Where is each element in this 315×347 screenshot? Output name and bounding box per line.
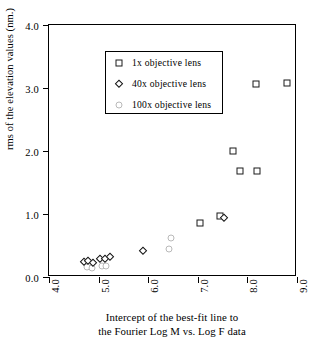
x-tick: 8.0	[247, 277, 248, 283]
y-tick-label: 4.0	[25, 21, 39, 32]
data-point-circle	[102, 262, 109, 269]
scatter-plot-figure: rms of the elevation values (nm.) 0.01.0…	[0, 0, 315, 347]
x-tick: 6.0	[148, 277, 149, 283]
data-point-diamond	[139, 246, 148, 255]
x-axis-title-line1: Intercept of the best-fit line to	[48, 310, 296, 324]
x-tick: 5.0	[99, 277, 100, 283]
x-axis-title-line2: the Fourier Log M vs. Log F data	[48, 324, 296, 338]
y-tick: 3.0	[43, 88, 49, 89]
y-tick-label: 2.0	[25, 147, 39, 158]
data-point-square	[197, 219, 204, 226]
plot-area: 0.01.02.03.04.0 4.05.06.07.08.09.0 1x ob…	[48, 24, 296, 276]
y-tick-label: 3.0	[25, 84, 39, 95]
legend-marker-circle-icon	[106, 94, 132, 115]
legend-item-label: 100x objective lens	[132, 99, 211, 110]
x-tick-label: 8.0	[248, 279, 259, 293]
x-tick-label: 7.0	[199, 279, 210, 293]
legend-marker-square-icon	[106, 52, 132, 73]
x-tick-label: 9.0	[298, 279, 309, 293]
y-axis-title: rms of the elevation values (nm.)	[4, 8, 15, 150]
y-tick-label: 0.0	[25, 273, 39, 284]
data-point-square	[236, 168, 243, 175]
y-tick: 1.0	[43, 214, 49, 215]
x-tick-label: 6.0	[149, 279, 160, 293]
legend-item: 1x objective lens	[106, 52, 222, 73]
x-tick: 7.0	[198, 277, 199, 283]
y-tick: 2.0	[43, 151, 49, 152]
data-point-square	[284, 79, 291, 86]
data-point-square	[229, 148, 236, 155]
y-tick-label: 1.0	[25, 210, 39, 221]
legend-marker-diamond-icon	[106, 73, 132, 94]
data-point-square	[254, 168, 261, 175]
data-point-circle	[166, 246, 173, 253]
y-tick: 4.0	[43, 25, 49, 26]
legend-item: 100x objective lens	[106, 94, 222, 115]
data-point-square	[253, 81, 260, 88]
data-point-circle	[167, 234, 174, 241]
x-axis-title: Intercept of the best-fit line to the Fo…	[48, 310, 296, 338]
x-tick: 9.0	[297, 277, 298, 283]
legend: 1x objective lens40x objective lens100x …	[105, 51, 223, 114]
x-tick-label: 5.0	[100, 279, 111, 293]
legend-item-label: 1x objective lens	[132, 57, 201, 68]
x-tick-label: 4.0	[50, 279, 61, 293]
legend-item: 40x objective lens	[106, 73, 222, 94]
x-tick: 4.0	[49, 277, 50, 283]
legend-item-label: 40x objective lens	[132, 78, 206, 89]
